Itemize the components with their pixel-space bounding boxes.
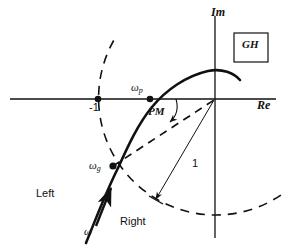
- omega-p-subscript: p: [139, 86, 143, 95]
- unit-radius-tick: [149, 196, 163, 204]
- nyquist-plot-canvas: [0, 0, 284, 246]
- right-region-label: Right: [120, 216, 146, 227]
- omega-direction-arrow: [96, 188, 111, 226]
- unit-radius-label: 1: [192, 158, 198, 169]
- phase-crossover-point: [147, 96, 154, 103]
- phase-margin-label: PM: [148, 106, 165, 117]
- gain-crossover-point: [109, 162, 116, 169]
- omega-g-subscript: g: [97, 164, 101, 173]
- omega-g-label: ωg: [89, 156, 101, 173]
- omega-g-base: ω: [89, 159, 97, 171]
- unit-circle-arc: [99, 41, 284, 216]
- omega-p-base: ω: [131, 81, 139, 93]
- gh-legend-label: GH: [242, 39, 259, 50]
- imaginary-axis-label: Im: [211, 6, 225, 18]
- minus-one-label: -1: [89, 102, 99, 113]
- gh-locus-curve: [86, 70, 240, 243]
- phase-margin-arc: [170, 99, 177, 122]
- real-axis-label: Re: [257, 99, 270, 111]
- omega-label: ω: [84, 226, 92, 237]
- left-region-label: Left: [36, 188, 54, 199]
- omega-base: ω: [84, 225, 92, 237]
- omega-p-label: ωp: [131, 78, 143, 95]
- nyquist-figure: Im Re GH -1 PM 1 Left Right ωp ωg ω: [0, 0, 284, 246]
